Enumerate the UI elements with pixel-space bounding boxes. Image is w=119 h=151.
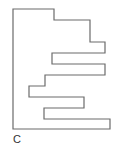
polygon-diagram: [0, 0, 119, 151]
diagram-label: C: [13, 134, 21, 145]
stepped-polygon-outline: [13, 9, 110, 129]
